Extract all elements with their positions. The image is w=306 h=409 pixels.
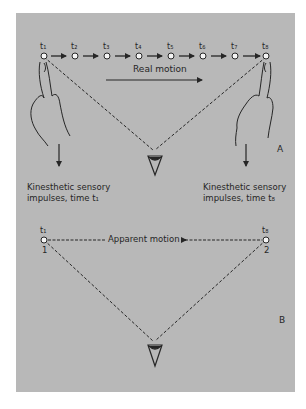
sight-lines-b [44, 240, 266, 341]
apparent-motion-label: Apparent motion [107, 234, 181, 245]
time-label-b-t1: t₁ [40, 226, 46, 235]
time-label-t6: t₆ [199, 42, 205, 51]
time-label-t1: t₁ [40, 42, 46, 51]
time-label-t4: t₄ [135, 42, 141, 51]
time-label-b-t8: t₈ [262, 226, 268, 235]
diagram-graphics [0, 0, 306, 409]
point-label-2: 2 [264, 246, 269, 255]
time-label-t3: t₃ [103, 42, 109, 51]
left-caption-line1: Kinesthetic sensory [27, 182, 110, 193]
right-caption-line1: Kinesthetic sensory [203, 182, 286, 193]
real-motion-label: Real motion [133, 64, 187, 75]
point-label-1: 1 [42, 246, 47, 255]
panel-letter-b: B [279, 315, 285, 325]
right-caption-line2: impulses, time t₈ [203, 193, 275, 204]
left-caption-line2: impulses, time t₁ [27, 193, 99, 204]
time-label-t2: t₂ [71, 42, 77, 51]
time-label-t8: t₈ [262, 42, 268, 51]
right-hand-icon [236, 62, 273, 146]
eye-icon-b [148, 345, 162, 366]
time-label-t7: t₇ [231, 42, 237, 51]
time-label-t5: t₅ [167, 42, 173, 51]
panel-letter-a: A [277, 144, 283, 154]
eye-icon-a [148, 156, 162, 175]
